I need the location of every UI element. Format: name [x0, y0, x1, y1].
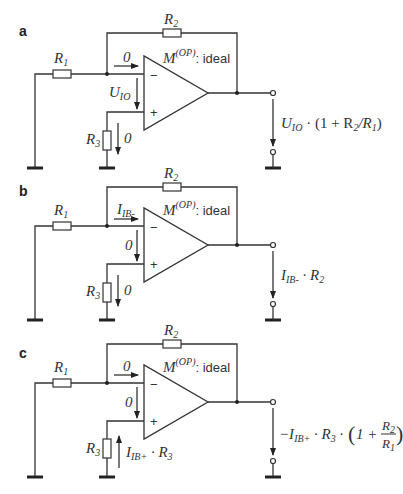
- panel-label-c: c: [19, 345, 27, 361]
- svg-text:R2: R2: [381, 418, 395, 435]
- label-r3-voltage: 0: [124, 130, 132, 146]
- op-amp-offset-circuits-figure: a − + R2 R1 R3 0 UIO 0: [0, 0, 403, 494]
- panel-label-b: b: [19, 183, 28, 199]
- junction-dot: [235, 243, 239, 247]
- svg-text:(: (: [348, 421, 355, 446]
- resistor-r3: [103, 283, 111, 302]
- plus-sign: +: [150, 257, 158, 272]
- svg-text:): ): [396, 421, 403, 446]
- minus-sign: −: [150, 377, 158, 392]
- label-r3-voltage: 0: [124, 282, 132, 298]
- junction-dot: [105, 381, 109, 385]
- minus-sign: −: [150, 68, 158, 83]
- plus-sign: +: [150, 414, 158, 429]
- output-terminal: [271, 459, 276, 464]
- label-r2: R2: [163, 322, 178, 340]
- label-r1: R1: [53, 359, 68, 377]
- resistor-r3: [103, 439, 111, 458]
- label-input-current: 0: [123, 49, 131, 65]
- output-terminal: [271, 302, 276, 307]
- label-r1: R1: [53, 50, 68, 68]
- svg-text:R1: R1: [381, 436, 395, 453]
- output-expression: −IIB+ · R3 · ( 1 + R2 R1 ): [279, 418, 403, 453]
- label-input-current: IIB-: [116, 201, 135, 219]
- label-input-voltage: 0: [125, 237, 133, 253]
- plus-sign: +: [150, 105, 158, 120]
- label-r3-voltage: IIB+ · R3: [125, 444, 173, 462]
- panel-b: b − + R2 R1 R3 IIB- 0 0 M(OP): ideal IIB…: [19, 165, 324, 320]
- output-terminal: [271, 150, 276, 155]
- label-input-current: 0: [123, 358, 131, 374]
- panel-label-a: a: [19, 23, 27, 39]
- output-expression: UIO · (1 + R2/R1): [281, 115, 382, 133]
- junction-dot: [105, 224, 109, 228]
- input-wire: [35, 74, 144, 168]
- resistor-r2: [163, 340, 181, 348]
- label-input-voltage: UIO: [109, 84, 130, 102]
- panel-c: c − + R2 R1 R3 0 0 IIB+ · R3 M(OP): idea…: [19, 322, 403, 477]
- panel-a: a − + R2 R1 R3 0 UIO 0: [19, 11, 382, 168]
- resistor-r1: [53, 70, 71, 78]
- output-expression: IIB- · R2: [280, 267, 324, 285]
- junction-dot: [235, 91, 239, 95]
- label-opamp-model: M(OP): ideal: [162, 356, 230, 375]
- label-r1: R1: [53, 202, 68, 220]
- resistor-r2: [163, 183, 181, 191]
- output-terminal: [271, 243, 276, 248]
- resistor-r3: [103, 131, 111, 150]
- junction-dot: [235, 400, 239, 404]
- resistor-r1: [53, 222, 71, 230]
- label-opamp-model: M(OP): ideal: [162, 47, 230, 66]
- resistor-r2: [163, 29, 181, 37]
- junction-dot: [105, 72, 109, 76]
- label-r2: R2: [163, 165, 178, 183]
- label-r3: R3: [85, 440, 100, 458]
- label-r3: R3: [85, 283, 100, 301]
- label-r2: R2: [163, 11, 178, 29]
- svg-text:1 +: 1 +: [356, 426, 377, 442]
- minus-sign: −: [150, 220, 158, 235]
- label-r3: R3: [85, 131, 100, 149]
- output-terminal: [271, 91, 276, 96]
- resistor-r1: [53, 379, 71, 387]
- label-opamp-model: M(OP): ideal: [162, 199, 230, 218]
- label-input-voltage: 0: [125, 394, 133, 410]
- output-terminal: [271, 400, 276, 405]
- svg-text:−IIB+ · R3 ·: −IIB+ · R3 ·: [279, 426, 343, 444]
